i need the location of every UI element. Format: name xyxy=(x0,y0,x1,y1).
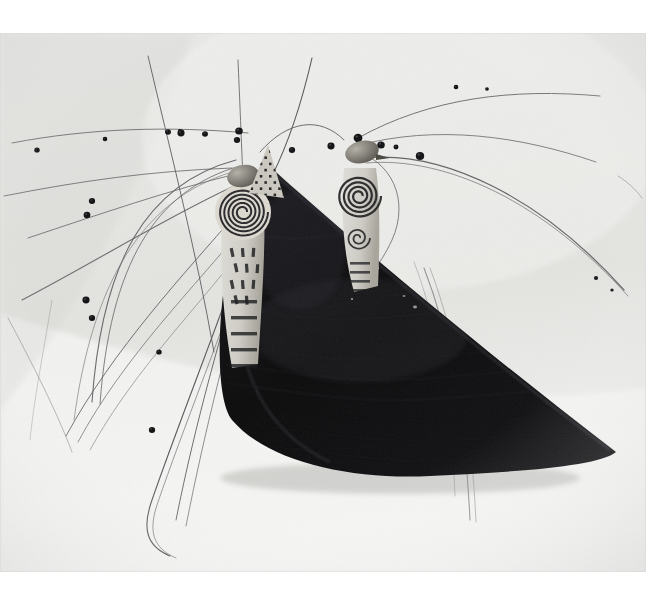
photograph-image xyxy=(0,33,646,572)
photograph-canvas xyxy=(0,33,646,572)
photo-grain xyxy=(0,33,646,572)
photograph-page: Black-and-white photograph of a sculptur… xyxy=(0,0,667,594)
